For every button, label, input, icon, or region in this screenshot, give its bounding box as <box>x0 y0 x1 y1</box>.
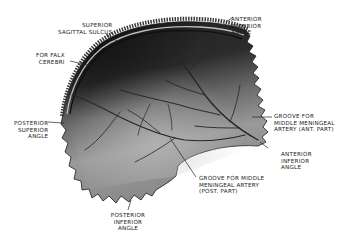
label-anterior-inferior-angle: Anterior Inferior Angle <box>281 151 312 171</box>
label-line: Inferior <box>281 158 312 165</box>
label-line: For Falx <box>36 52 65 59</box>
label-line: Inferior <box>103 219 153 226</box>
label-line: Angle <box>103 225 153 232</box>
label-posterior-inferior-angle: Posterior Inferior Angle <box>103 212 153 232</box>
label-groove-middle-meningeal-artery-post: Groove For Middle Meningeal Artery (Post… <box>199 175 264 195</box>
label-line: Posterior <box>14 120 48 127</box>
label-line: Anterior <box>231 16 262 23</box>
label-line: Middle Meningeal <box>274 120 335 127</box>
label-superior-sagittal-sulcus: Superior Sagittal Sulcus <box>58 22 112 35</box>
label-line: Superior <box>58 22 112 29</box>
label-line: Groove For <box>274 113 335 120</box>
label-for-falx-cerebri: For Falx Cerebri <box>36 52 65 65</box>
label-line: Cerebri <box>36 59 65 66</box>
label-line: Meningeal Artery <box>199 182 264 189</box>
label-line: Anterior <box>281 151 312 158</box>
label-posterior-superior-angle: Posterior Superior Angle <box>14 120 48 140</box>
label-line: (Post. Part) <box>199 188 264 195</box>
label-line: Superior <box>14 127 48 134</box>
label-line: Superior <box>231 23 262 30</box>
label-line: Artery (Ant. Part) <box>274 126 335 133</box>
label-line: Sagittal Sulcus <box>58 29 112 36</box>
label-line: Groove For Middle <box>199 175 264 182</box>
label-line: Angle <box>231 29 262 36</box>
label-groove-middle-meningeal-artery-ant: Groove For Middle Meningeal Artery (Ant.… <box>274 113 335 133</box>
label-line: Angle <box>14 133 48 140</box>
label-anterior-superior-angle: Anterior Superior Angle <box>231 16 262 36</box>
label-line: Posterior <box>103 212 153 219</box>
label-line: Angle <box>281 164 312 171</box>
